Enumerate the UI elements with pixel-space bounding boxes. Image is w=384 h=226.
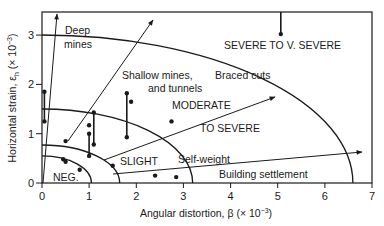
y-tick-1: 1 <box>28 128 34 140</box>
y-tick-2: 2 <box>28 78 34 90</box>
x-tick-5: 5 <box>275 190 281 202</box>
y-tick-labels: 0 1 2 3 <box>28 29 34 189</box>
label-self-weight: Self-weight <box>178 153 230 165</box>
label-shallow-1: Shallow mines, <box>122 69 193 81</box>
x-tick-3: 3 <box>180 190 186 202</box>
y-tick-0: 0 <box>28 177 34 189</box>
label-to-severe: TO SEVERE <box>200 122 260 134</box>
data-points <box>42 32 283 179</box>
label-braced-cuts: Braced cuts <box>215 69 270 81</box>
x-tick-0: 0 <box>39 190 45 202</box>
x-tick-7: 7 <box>369 190 375 202</box>
annotations: Deep mines Shallow mines, and tunnels Br… <box>53 24 341 183</box>
label-deep-mines-1: Deep <box>65 24 90 36</box>
label-moderate: MODERATE <box>172 99 231 111</box>
x-tick-labels: 0 1 2 3 4 5 6 7 <box>39 190 375 202</box>
x-tick-4: 4 <box>228 190 234 202</box>
x-tick-1: 1 <box>86 190 92 202</box>
chart-root: 0 1 2 3 0 1 2 3 4 5 6 7 Angular distorti… <box>0 0 384 226</box>
label-deep-mines-2: mines <box>64 38 92 50</box>
x-tick-6: 6 <box>322 190 328 202</box>
label-shallow-2: and tunnels <box>148 82 202 94</box>
label-neg: NEG. <box>53 171 79 183</box>
x-axis-title: Angular distortion, β (× 10−3) <box>140 207 272 219</box>
x-tick-2: 2 <box>133 190 139 202</box>
label-slight: SLIGHT <box>120 155 159 167</box>
y-axis <box>36 35 42 183</box>
label-severe-to-v-severe: SEVERE TO V. SEVERE <box>224 39 341 51</box>
label-building-settlement: Building settlement <box>219 168 308 180</box>
y-axis-title: Horizontal strain, εh (× 10−3) <box>6 34 20 163</box>
y-tick-3: 3 <box>28 29 34 41</box>
x-axis <box>42 183 372 188</box>
